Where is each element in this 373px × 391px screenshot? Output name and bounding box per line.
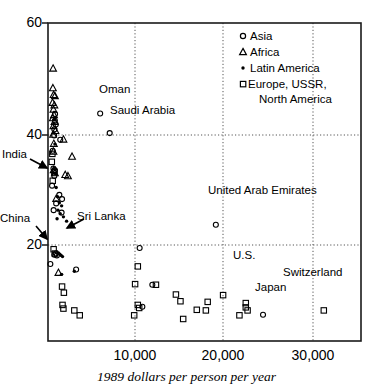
- data-point-latin-america: [58, 201, 61, 204]
- point-label-japan: Japan: [255, 281, 286, 293]
- legend-label-asia: Asia: [250, 30, 272, 42]
- x-axis-title: 1989 dollars per person per year: [0, 369, 373, 385]
- point-label-united-arab-emirates: United Arab Emirates: [208, 184, 317, 196]
- legend-label-north-america: North America: [259, 93, 332, 105]
- data-point-latin-america: [60, 273, 63, 276]
- point-label-sri-lanka: Sri Lanka: [77, 210, 126, 222]
- legend-label-africa: Africa: [250, 46, 279, 58]
- x-tick-label-20000: 20,000: [202, 347, 245, 363]
- data-point-latin-america: [61, 255, 64, 258]
- data-point-europe-ussr-north-america: [203, 308, 208, 313]
- data-point-europe-ussr-north-america: [49, 159, 54, 164]
- point-label-saudi-arabia: Saudi Arabia: [110, 104, 175, 116]
- data-point-europe-ussr-north-america: [173, 292, 178, 297]
- data-point-europe-ussr-north-america: [72, 308, 77, 313]
- data-point-africa: [50, 84, 57, 90]
- data-point-asia: [51, 208, 56, 213]
- data-point-latin-america: [56, 208, 59, 211]
- data-point-africa: [60, 136, 67, 142]
- scatter-plot-figure: 60 40 20 10,000 20,000 30,000 1989 dolla…: [0, 0, 373, 391]
- data-point-europe-ussr-north-america: [237, 313, 242, 318]
- plot-canvas: [0, 0, 373, 391]
- legend-label-latin-america: Latin America: [250, 62, 320, 74]
- point-label-china: China: [0, 212, 30, 224]
- y-tick-label-40: 40: [0, 126, 42, 142]
- data-point-latin-america: [60, 204, 63, 207]
- y-tick-label-60: 60: [0, 14, 42, 30]
- data-point-asia: [261, 312, 266, 317]
- data-point-europe-ussr-north-america: [321, 308, 326, 313]
- data-point-latin-america: [54, 186, 57, 189]
- data-point-europe-ussr-north-america: [180, 316, 185, 321]
- data-point-latin-america: [65, 219, 68, 222]
- arrow-india: [30, 159, 47, 168]
- data-point-asia: [213, 222, 218, 227]
- legend-label-europe-ussr: Europe, USSR,: [248, 78, 327, 90]
- data-point-europe-ussr-north-america: [131, 313, 136, 318]
- data-point-africa: [69, 153, 76, 159]
- point-label-oman: Oman: [99, 83, 130, 95]
- data-point-latin-america: [53, 142, 56, 145]
- data-point-africa: [50, 65, 57, 71]
- point-label-switzerland: Switzerland: [283, 266, 342, 278]
- x-tick-label-30000: 30,000: [292, 347, 335, 363]
- data-point-asia: [150, 282, 155, 287]
- data-point-latin-america: [55, 217, 58, 220]
- data-point-latin-america: [62, 215, 65, 218]
- data-point-latin-america: [73, 270, 76, 273]
- point-label-india: India: [2, 148, 27, 160]
- data-point-latin-america: [59, 212, 62, 215]
- data-point-europe-ussr-north-america: [135, 264, 140, 269]
- data-point-latin-america: [52, 131, 55, 134]
- data-point-europe-ussr-north-america: [178, 299, 183, 304]
- data-point-europe-ussr-north-america: [205, 299, 210, 304]
- point-label-us: U.S.: [233, 249, 255, 261]
- data-point-latin-america: [53, 118, 56, 121]
- data-point-europe-ussr-north-america: [194, 307, 199, 312]
- data-point-latin-america: [56, 195, 59, 198]
- x-tick-label-10000: 10,000: [114, 347, 157, 363]
- data-point-europe-ussr-north-america: [61, 290, 66, 295]
- data-point-europe-ussr-north-america: [59, 284, 64, 289]
- y-tick-label-20: 20: [0, 236, 42, 252]
- data-point-europe-ussr-north-america: [77, 313, 82, 318]
- data-point-asia: [98, 111, 103, 116]
- data-point-asia: [137, 246, 142, 251]
- axis-ticks: [42, 23, 48, 245]
- data-point-asia: [60, 197, 65, 202]
